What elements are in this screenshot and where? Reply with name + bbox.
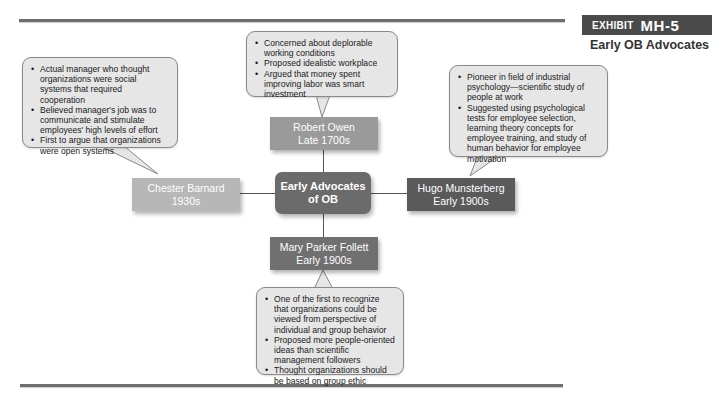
- center-line1: Early Advocates: [280, 180, 365, 193]
- node-mary-parker-follett: Mary Parker Follett Early 1900s: [270, 237, 378, 270]
- mary-point: Thought organizations should be based on…: [265, 365, 395, 385]
- owen-point: Argued that money spent improving labor …: [255, 69, 389, 100]
- node-hugo-munsterberg: Hugo Munsterberg Early 1900s: [407, 178, 515, 211]
- robert-owen-name: Robert Owen: [293, 121, 355, 134]
- hugo-munsterberg-name: Hugo Munsterberg: [418, 182, 505, 195]
- chester-point: Actual manager who thought organizations…: [31, 64, 169, 105]
- callout-hugo-munsterberg: Pioneer in field of industrial psycholog…: [449, 65, 608, 157]
- robert-owen-era: Late 1700s: [298, 134, 350, 147]
- center-line2: of OB: [308, 193, 338, 206]
- owen-point: Concerned about deplorable working condi…: [255, 38, 389, 58]
- chester-point: Believed manager's job was to communicat…: [31, 105, 169, 136]
- mary-point: Proposed more people-oriented ideas than…: [265, 335, 395, 366]
- callout-robert-owen: Concerned about deplorable working condi…: [246, 31, 398, 97]
- node-chester-barnard: Chester Barnard 1930s: [132, 178, 240, 211]
- chester-point: First to argue that organizations were o…: [31, 135, 169, 155]
- mary-point: One of the first to recognize that organ…: [265, 294, 395, 335]
- hugo-point: Suggested using psychological tests for …: [458, 103, 599, 164]
- node-robert-owen: Robert Owen Late 1700s: [270, 117, 378, 150]
- callout-chester-barnard: Actual manager who thought organizations…: [22, 57, 178, 148]
- hugo-point: Pioneer in field of industrial psycholog…: [458, 72, 599, 103]
- chester-barnard-era: 1930s: [172, 195, 201, 208]
- callout-mary-parker-follett: One of the first to recognize that organ…: [256, 287, 404, 375]
- node-center: Early Advocates of OB: [275, 172, 371, 214]
- chester-barnard-name: Chester Barnard: [147, 182, 224, 195]
- owen-point: Proposed idealistic workplace: [255, 58, 389, 68]
- mary-parker-follett-name: Mary Parker Follett: [280, 241, 369, 254]
- mary-parker-follett-era: Early 1900s: [296, 254, 351, 267]
- hugo-munsterberg-era: Early 1900s: [433, 195, 488, 208]
